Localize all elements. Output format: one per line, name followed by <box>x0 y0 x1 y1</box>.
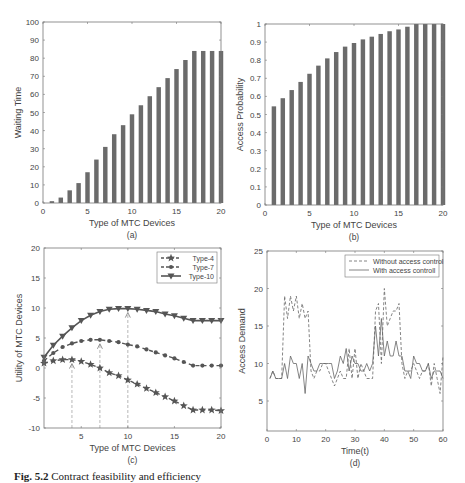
y-tick-label: 10 <box>31 304 40 313</box>
panel-b-access-probability-bar-chart: 0510152000.10.20.30.40.50.60.70.80.91Typ… <box>235 20 448 242</box>
y-tick-label: 0.8 <box>250 56 262 65</box>
circle-marker <box>79 339 83 343</box>
bar <box>103 147 107 203</box>
y-tick-label: -10 <box>28 424 40 433</box>
circle-marker <box>61 345 65 349</box>
bar <box>361 39 365 205</box>
x-axis-label: Type of MTC Devices <box>311 220 398 230</box>
bar <box>316 66 320 205</box>
y-tick-label: 15 <box>31 274 40 283</box>
y-tick-label: 10 <box>254 360 263 369</box>
x-tick-label: 10 <box>350 209 359 218</box>
y-tick-label: -5 <box>33 394 41 403</box>
figure-canvas: 051015200102030405060708090100Type of MT… <box>0 0 465 483</box>
y-axis-label: Access Demand <box>237 308 247 374</box>
y-tick-label: 90 <box>30 36 39 45</box>
y-tick-label: 20 <box>30 163 39 172</box>
star-marker <box>87 360 95 368</box>
legend: Without access controlWith access contro… <box>345 255 444 277</box>
panel-label: (a) <box>127 230 138 240</box>
y-tick-label: 25 <box>254 247 263 256</box>
legend-label: Type-4 <box>193 255 215 263</box>
figure-caption: Fig. 5.2 Contract feasibility and effici… <box>14 470 201 482</box>
bar <box>387 31 391 205</box>
x-axis-label: Time(t) <box>341 446 369 456</box>
y-tick-label: 40 <box>30 127 39 136</box>
y-tick-label: 80 <box>30 54 39 63</box>
x-tick-label: 20 <box>439 209 448 218</box>
star-marker <box>68 355 76 363</box>
circle-marker <box>107 339 111 343</box>
circle-marker <box>70 341 74 345</box>
legend-label: Without access control <box>373 258 444 265</box>
bar <box>183 60 187 203</box>
y-tick-label: 0.3 <box>250 147 262 156</box>
bar <box>67 190 71 203</box>
y-tick-label: 0 <box>35 199 40 208</box>
star-marker <box>152 388 160 396</box>
caption-text: Contract feasibility and efficiency <box>51 470 201 482</box>
star-marker <box>161 393 169 401</box>
bar <box>85 172 89 203</box>
x-axis-label: Type of MTC Devices <box>89 443 176 453</box>
y-tick-label: 20 <box>31 244 40 253</box>
star-marker <box>198 406 206 414</box>
star-marker <box>142 384 150 392</box>
bar <box>405 27 409 205</box>
x-tick-label: 5 <box>307 209 312 218</box>
star-marker <box>180 402 188 410</box>
bar <box>396 29 400 205</box>
star-marker <box>77 357 85 365</box>
bar <box>148 96 152 203</box>
series-line <box>270 289 443 394</box>
circle-marker <box>116 340 120 344</box>
bar <box>352 43 356 205</box>
y-tick-label: 0.5 <box>250 111 262 120</box>
y-tick-label: 0.7 <box>250 74 262 83</box>
star-marker <box>208 406 216 414</box>
y-tick-label: 0 <box>36 364 41 373</box>
y-tick-label: 1 <box>257 20 262 29</box>
y-axis-label: Access Probability <box>235 77 245 151</box>
panel-d-access-demand-line-chart: 0102030405060510152025Time(t)(d)Access D… <box>237 247 448 468</box>
y-tick-label: 0.4 <box>250 129 262 138</box>
series-line <box>44 309 221 358</box>
y-tick-label: 5 <box>259 397 264 406</box>
x-tick-label: 20 <box>217 432 226 441</box>
y-tick-label: 5 <box>36 334 41 343</box>
circle-marker <box>169 265 173 269</box>
bar <box>343 47 347 205</box>
y-axis-label: Utility of MTC Devices <box>14 293 24 382</box>
x-tick-label: 50 <box>409 435 418 444</box>
bar <box>432 24 436 205</box>
bar <box>281 98 285 205</box>
circle-marker <box>191 364 195 368</box>
x-tick-label: 0 <box>263 209 268 218</box>
x-tick-label: 60 <box>439 435 448 444</box>
star-marker <box>49 357 57 365</box>
figure: 051015200102030405060708090100Type of MT… <box>0 0 465 483</box>
bar <box>201 51 205 203</box>
circle-marker <box>51 351 55 355</box>
circle-marker <box>88 338 92 342</box>
star-marker <box>105 369 113 377</box>
x-axis-label: Type of MTC Devices <box>89 218 176 228</box>
circle-marker <box>144 347 148 351</box>
circle-marker <box>172 356 176 360</box>
star-marker <box>115 372 123 380</box>
x-tick-label: 40 <box>380 435 389 444</box>
x-tick-label: 10 <box>292 435 301 444</box>
x-tick-label: 15 <box>172 207 181 216</box>
bar <box>370 37 374 205</box>
y-tick-label: 0 <box>257 201 262 210</box>
y-tick-label: 60 <box>30 90 39 99</box>
series-line <box>270 319 443 394</box>
bar <box>156 87 160 203</box>
circle-marker <box>126 343 130 347</box>
y-tick-label: 10 <box>30 181 39 190</box>
circle-marker <box>210 364 214 368</box>
bar <box>325 58 329 205</box>
bar <box>378 34 382 205</box>
panel-label: (c) <box>128 455 138 465</box>
bar <box>165 78 169 203</box>
